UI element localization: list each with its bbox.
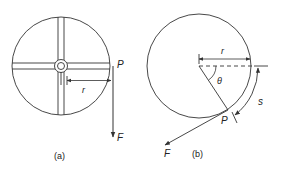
radius-to-p	[199, 66, 228, 110]
radius-label-b: r	[221, 46, 225, 56]
point-label-b: P	[221, 115, 228, 126]
caption-a: (a)	[54, 151, 65, 161]
arc-label: s	[258, 96, 263, 107]
caption-b: (b)	[192, 149, 203, 159]
figure: P r F (a) r θ s P F (b)	[0, 0, 281, 175]
angle-label: θ	[217, 76, 222, 86]
panel-b: r θ s P F (b)	[147, 14, 268, 159]
force-label-b: F	[164, 148, 171, 159]
hub-inner	[58, 63, 65, 70]
panel-a: P r F (a)	[12, 17, 124, 161]
point-label-a: P	[117, 59, 124, 70]
force-label-a: F	[117, 132, 124, 143]
force-arrow-b	[165, 110, 228, 145]
arc-length-s	[235, 68, 258, 115]
radius-label-a: r	[82, 85, 86, 95]
angle-arc	[209, 66, 216, 80]
